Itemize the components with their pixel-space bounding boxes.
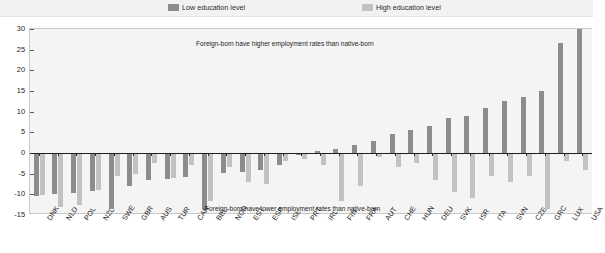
bar-low-education[interactable] bbox=[446, 118, 451, 153]
bar-group[interactable] bbox=[405, 29, 424, 213]
bar-low-education[interactable] bbox=[71, 153, 76, 193]
bar-high-education[interactable] bbox=[227, 153, 232, 167]
bar-group[interactable] bbox=[292, 29, 311, 213]
bar-high-education[interactable] bbox=[133, 153, 138, 174]
bar-high-education[interactable] bbox=[208, 153, 213, 201]
bar-high-education[interactable] bbox=[339, 153, 344, 201]
bar-high-education[interactable] bbox=[246, 153, 251, 182]
bar-high-education[interactable] bbox=[396, 153, 401, 167]
legend-label-low-education: Low education level bbox=[182, 3, 245, 12]
bar-low-education[interactable] bbox=[183, 153, 188, 177]
bar-group[interactable] bbox=[180, 29, 199, 213]
bar-low-education[interactable] bbox=[277, 153, 282, 165]
bar-group[interactable] bbox=[498, 29, 517, 213]
bar-high-education[interactable] bbox=[583, 153, 588, 170]
bar-low-education[interactable] bbox=[427, 126, 432, 153]
bar-low-education[interactable] bbox=[258, 153, 263, 170]
bar-high-education[interactable] bbox=[40, 153, 45, 195]
bar-high-education[interactable] bbox=[527, 153, 532, 176]
bar-low-education[interactable] bbox=[483, 108, 488, 153]
bar-high-education[interactable] bbox=[508, 153, 513, 182]
legend-swatch-low-education bbox=[168, 4, 179, 11]
bar-high-education[interactable] bbox=[414, 153, 419, 163]
bar-high-education[interactable] bbox=[452, 153, 457, 192]
bar-low-education[interactable] bbox=[502, 101, 507, 153]
legend-item-high-education[interactable]: High education level bbox=[362, 3, 441, 12]
bar-high-education[interactable] bbox=[283, 153, 288, 161]
annotation-above-zero: Foreign-born have higher employment rate… bbox=[196, 40, 374, 47]
bar-low-education[interactable] bbox=[34, 153, 39, 196]
bar-group[interactable] bbox=[442, 29, 461, 213]
y-axis-tick bbox=[30, 29, 34, 30]
y-axis-tick-label: -15 bbox=[5, 210, 25, 219]
y-axis-tick bbox=[30, 174, 34, 175]
bar-group[interactable] bbox=[536, 29, 555, 213]
bar-group[interactable] bbox=[517, 29, 536, 213]
bar-low-education[interactable] bbox=[240, 153, 245, 172]
bar-low-education[interactable] bbox=[539, 91, 544, 153]
bar-high-education[interactable] bbox=[152, 153, 157, 163]
bar-high-education[interactable] bbox=[171, 153, 176, 178]
bar-group[interactable] bbox=[142, 29, 161, 213]
bar-low-education[interactable] bbox=[352, 145, 357, 153]
bar-high-education[interactable] bbox=[489, 153, 494, 176]
bar-group[interactable] bbox=[49, 29, 68, 213]
bar-group[interactable] bbox=[105, 29, 124, 213]
bar-high-education[interactable] bbox=[545, 153, 550, 209]
bar-group[interactable] bbox=[217, 29, 236, 213]
bar-low-education[interactable] bbox=[221, 153, 226, 173]
bar-group[interactable] bbox=[386, 29, 405, 213]
bar-group[interactable] bbox=[348, 29, 367, 213]
bar-high-education[interactable] bbox=[433, 153, 438, 180]
y-axis-tick-label: -10 bbox=[5, 189, 25, 198]
bar-low-education[interactable] bbox=[90, 153, 95, 191]
y-axis-tick-label: 25 bbox=[5, 44, 25, 53]
bar-high-education[interactable] bbox=[58, 153, 63, 207]
bar-group[interactable] bbox=[86, 29, 105, 213]
bar-group[interactable] bbox=[330, 29, 349, 213]
bar-group[interactable] bbox=[124, 29, 143, 213]
bar-low-education[interactable] bbox=[390, 134, 395, 153]
bar-high-education[interactable] bbox=[564, 153, 569, 161]
bar-high-education[interactable] bbox=[96, 153, 101, 190]
bar-low-education[interactable] bbox=[146, 153, 151, 180]
bar-high-education[interactable] bbox=[358, 153, 363, 186]
legend-swatch-high-education bbox=[362, 4, 373, 11]
bar-group[interactable] bbox=[555, 29, 574, 213]
bar-low-education[interactable] bbox=[558, 43, 563, 153]
legend-item-low-education[interactable]: Low education level bbox=[168, 3, 245, 12]
bar-low-education[interactable] bbox=[52, 153, 57, 194]
bar-low-education[interactable] bbox=[521, 97, 526, 153]
bar-high-education[interactable] bbox=[77, 153, 82, 205]
bar-high-education[interactable] bbox=[470, 153, 475, 198]
bar-group[interactable] bbox=[67, 29, 86, 213]
bar-high-education[interactable] bbox=[115, 153, 120, 176]
bar-group[interactable] bbox=[255, 29, 274, 213]
bar-high-education[interactable] bbox=[321, 153, 326, 165]
bar-high-education[interactable] bbox=[264, 153, 269, 184]
y-axis-tick-label: 15 bbox=[5, 86, 25, 95]
bar-group[interactable] bbox=[30, 29, 49, 213]
bar-group[interactable] bbox=[573, 29, 592, 213]
bar-group[interactable] bbox=[461, 29, 480, 213]
y-axis-tick-label: -5 bbox=[5, 168, 25, 177]
bar-group[interactable] bbox=[423, 29, 442, 213]
bar-group[interactable] bbox=[274, 29, 293, 213]
bar-low-education[interactable] bbox=[109, 153, 114, 209]
y-axis-tick-label: 0 bbox=[5, 148, 25, 157]
bar-low-education[interactable] bbox=[577, 29, 582, 153]
bar-group[interactable] bbox=[161, 29, 180, 213]
bar-low-education[interactable] bbox=[127, 153, 132, 186]
bar-low-education[interactable] bbox=[202, 153, 207, 209]
bar-group[interactable] bbox=[311, 29, 330, 213]
bar-low-education[interactable] bbox=[165, 153, 170, 179]
bar-group[interactable] bbox=[480, 29, 499, 213]
bar-low-education[interactable] bbox=[371, 141, 376, 153]
bar-low-education[interactable] bbox=[464, 116, 469, 153]
bar-group[interactable] bbox=[236, 29, 255, 213]
bar-group[interactable] bbox=[199, 29, 218, 213]
bar-low-education[interactable] bbox=[408, 130, 413, 153]
bar-group[interactable] bbox=[367, 29, 386, 213]
bar-high-education[interactable] bbox=[189, 153, 194, 165]
